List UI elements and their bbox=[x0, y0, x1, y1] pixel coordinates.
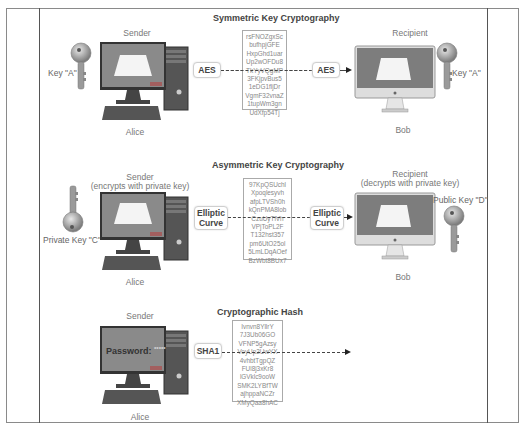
section-title-asymmetric: Asymmetric Key Cryptography bbox=[212, 160, 344, 170]
key-icon bbox=[436, 42, 458, 90]
hash-output-block: Ivnvn8YllrY7J3Ub06GOVFNP5gAzsyVoyUp2UwYX… bbox=[232, 320, 283, 402]
algorithm-badge-aes-decrypt: AES bbox=[312, 62, 340, 78]
recipient-label: Recipient bbox=[380, 28, 440, 38]
arrow-head-icon bbox=[347, 214, 353, 220]
recipient-role-note: (decrypts with private key) bbox=[340, 178, 480, 188]
key-label: Private Key "C" bbox=[43, 235, 101, 245]
ciphertext-block: 97KpQSUchlXpoqlesyvhafpLTVSh0hkQnPMA8lob… bbox=[243, 178, 292, 260]
data-flow-line bbox=[228, 217, 310, 218]
algorithm-badge-elliptic-curve-decrypt: Elliptic Curve bbox=[310, 206, 344, 230]
key-icon bbox=[70, 42, 92, 90]
public-key-icon bbox=[443, 205, 465, 253]
desktop-computer-icon bbox=[98, 324, 190, 406]
private-key-icon bbox=[62, 184, 84, 234]
arrow-head-icon bbox=[345, 349, 351, 355]
algorithm-badge-elliptic-curve-encrypt: Elliptic Curve bbox=[194, 206, 228, 230]
section-title-symmetric: Symmetric Key Cryptography bbox=[213, 13, 340, 23]
arrow-head-icon bbox=[346, 67, 352, 73]
password-label: Password: bbox=[106, 346, 152, 356]
sender-label: Sender bbox=[115, 311, 165, 321]
sender-name: Alice bbox=[110, 277, 160, 287]
key-label: Key "A" bbox=[48, 68, 77, 78]
right-divider bbox=[487, 8, 488, 423]
algorithm-badge-sha1: SHA1 bbox=[194, 343, 222, 359]
key-label: Key "A" bbox=[452, 68, 481, 78]
sender-label: Sender bbox=[112, 28, 162, 38]
desktop-computer-icon bbox=[98, 190, 190, 272]
password-field: Password: ***** bbox=[106, 346, 166, 356]
monitor-icon bbox=[354, 192, 436, 262]
recipient-name: Bob bbox=[378, 272, 428, 282]
sender-name: Alice bbox=[115, 412, 165, 422]
left-divider bbox=[39, 8, 40, 423]
section-title-hash: Cryptographic Hash bbox=[217, 307, 303, 317]
sender-name: Alice bbox=[110, 127, 160, 137]
password-mask: ***** bbox=[154, 346, 166, 352]
data-flow-line-overlay bbox=[221, 70, 312, 71]
data-flow-line bbox=[222, 352, 345, 353]
key-label: Public Key "D" bbox=[433, 195, 488, 205]
desktop-computer-icon bbox=[98, 40, 190, 122]
algorithm-badge-aes-encrypt: AES bbox=[193, 62, 221, 78]
recipient-name: Bob bbox=[378, 125, 428, 135]
monitor-icon bbox=[354, 45, 436, 115]
